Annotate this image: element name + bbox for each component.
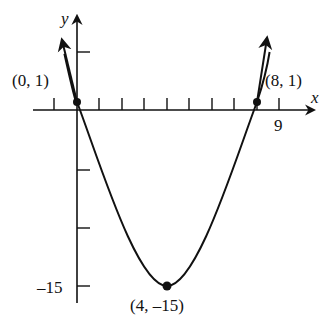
point-label-vertex: (4, –15) — [130, 296, 184, 315]
parabola-curve — [64, 52, 269, 286]
point-8-1 — [253, 98, 261, 106]
x-ticks — [54, 98, 279, 110]
point-vertex — [163, 282, 172, 291]
y-ticks — [77, 52, 90, 286]
y-axis-label: y — [59, 9, 69, 28]
x-axis-label: x — [310, 88, 319, 107]
point-label-right: (8, 1) — [265, 71, 302, 90]
point-0-1 — [73, 98, 81, 106]
parabola-graph: y x 9 –15 (0, 1) (8, 1) (4, –15) — [0, 0, 326, 320]
x-tick-label-9: 9 — [274, 116, 283, 135]
point-label-left: (0, 1) — [12, 71, 49, 90]
curve-arrow-left — [62, 40, 77, 102]
y-tick-label-neg15: –15 — [36, 278, 63, 297]
